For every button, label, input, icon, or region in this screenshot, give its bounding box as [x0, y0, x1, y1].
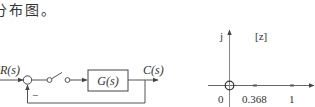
- tick-label-0368: 0.368: [242, 93, 267, 105]
- feedback-sign: −: [32, 89, 38, 101]
- z-plane-diagram: j [z] 0 0.368 1: [208, 30, 314, 107]
- output-label: C(s): [143, 63, 164, 77]
- block-label: G(s): [97, 74, 118, 88]
- imaginary-axis-label: j: [219, 30, 223, 42]
- tick-label-1: 1: [289, 93, 295, 105]
- plane-label: [z]: [255, 30, 267, 42]
- switch-contact-right: [65, 78, 70, 83]
- figure-canvas: R(s) G(s) C(s) − j [z]: [0, 0, 315, 107]
- switch-contact-left: [47, 78, 52, 83]
- sampler-switch-blade: [52, 73, 63, 79]
- input-label: R(s): [0, 63, 20, 77]
- block-diagram: R(s) G(s) C(s) −: [0, 63, 164, 103]
- origin-label: 0: [218, 93, 224, 105]
- summing-junction: [23, 76, 31, 84]
